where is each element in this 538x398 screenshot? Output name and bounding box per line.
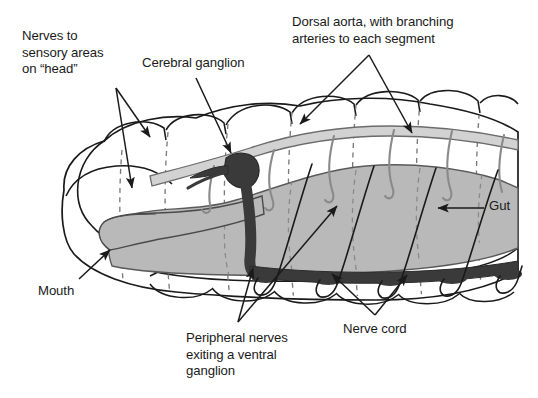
label-nerve-cord: Nerve cord (343, 321, 407, 338)
label-dorsal-aorta: Dorsal aorta, with branching arteries to… (292, 14, 453, 47)
label-gut: Gut (489, 198, 510, 215)
label-cerebral-ganglion: Cerebral ganglion (142, 55, 244, 72)
anatomy-figure: Nerves to sensory areas on “head” Cerebr… (0, 0, 538, 398)
label-peripheral-nerves: Peripheral nerves exiting a ventral gang… (186, 330, 288, 380)
label-nerves-to-sensory-areas: Nerves to sensory areas on “head” (22, 28, 104, 78)
label-mouth: Mouth (38, 283, 74, 300)
